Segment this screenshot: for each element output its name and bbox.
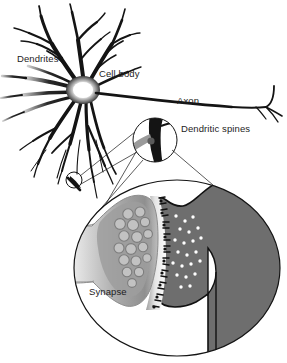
soma-cell-body (66, 76, 100, 104)
label-cell-body: Cell body (99, 69, 140, 79)
synapse-detail-inset (70, 176, 287, 362)
dendrite-marker-circle (66, 172, 82, 190)
dendrite-tree (1, 4, 141, 198)
label-synapse: Synapse (89, 287, 127, 297)
inset-dendritic-spines (130, 114, 181, 166)
label-dendrites: Dendrites (17, 54, 59, 64)
label-axon: Axon (177, 96, 199, 106)
neuron-diagram: Dendrites Cell body Axon Dendritic spine… (0, 0, 287, 363)
label-dendritic-spines: Dendritic spines (181, 124, 250, 134)
